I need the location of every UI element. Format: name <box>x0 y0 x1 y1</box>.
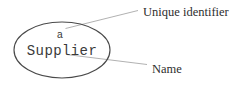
unique-identifier-text: a <box>57 29 64 41</box>
object-diagram-canvas: a Supplier Unique identifier Name <box>0 0 230 86</box>
annotation-label-name: Name <box>152 62 182 76</box>
annotation-label-unique-identifier: Unique identifier <box>143 5 230 19</box>
diagram-svg: a Supplier Unique identifier Name <box>0 0 230 86</box>
name-text: Supplier <box>27 43 97 59</box>
leader-line-unique-identifier <box>66 11 139 29</box>
